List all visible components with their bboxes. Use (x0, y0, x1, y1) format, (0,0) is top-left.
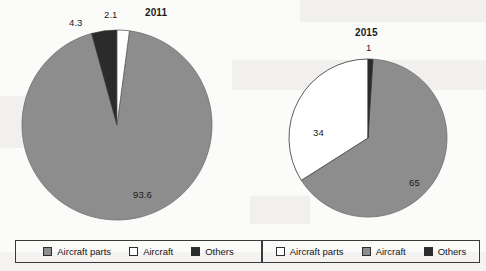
pie-title-2015: 2015 (355, 27, 378, 38)
legend-item-aircraft-parts[interactable]: Aircraft parts (43, 246, 111, 257)
data-label-2015-others: 1 (366, 42, 371, 53)
data-label-2011-aircraft: 2.1 (104, 9, 118, 20)
legend-2011: Aircraft parts Aircraft Others (15, 240, 262, 263)
legend-label-others: Others (438, 246, 467, 257)
legend-swatch-icon-gray (362, 247, 371, 256)
legend-2015: Aircraft parts Aircraft Others (262, 240, 480, 263)
data-label-2011-others: 4.3 (69, 17, 83, 28)
pie-chart-figure: 2011 2.1 4.3 93.6 2015 1 34 65 Aircraft … (0, 0, 486, 271)
data-label-2015-aircraft: 65 (409, 177, 420, 188)
pie-title-2011: 2011 (145, 7, 167, 18)
legend-item-others[interactable]: Others (424, 246, 467, 257)
legend-swatch-icon-gray (43, 247, 52, 256)
legend-swatch-icon-white (129, 247, 138, 256)
legend-item-aircraft[interactable]: Aircraft (362, 246, 406, 257)
legend-label-others: Others (205, 246, 234, 257)
legend-item-aircraft-parts[interactable]: Aircraft parts (276, 246, 344, 257)
pie-2015 (289, 59, 447, 217)
pie-charts-svg (0, 0, 486, 271)
legend-swatch-icon-dark (191, 247, 200, 256)
legend-swatch-icon-white (276, 247, 285, 256)
legend-swatch-icon-dark (424, 247, 433, 256)
data-label-2015-aircraft-parts: 34 (313, 127, 324, 138)
legend-item-others[interactable]: Others (191, 246, 234, 257)
data-label-2011-aircraft-parts: 93.6 (133, 189, 152, 200)
legend-label-aircraft: Aircraft (143, 246, 173, 257)
legend-label-aircraft-parts: Aircraft parts (57, 246, 111, 257)
legend-item-aircraft[interactable]: Aircraft (129, 246, 173, 257)
pie-2011 (22, 30, 212, 220)
legend-label-aircraft: Aircraft (376, 246, 406, 257)
legend-label-aircraft-parts: Aircraft parts (290, 246, 344, 257)
